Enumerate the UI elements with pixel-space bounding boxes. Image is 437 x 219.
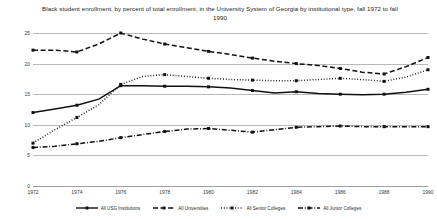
data-point-marker — [163, 85, 166, 88]
data-point-marker — [163, 73, 166, 76]
legend-item[interactable]: All Senior Colleges — [221, 205, 285, 211]
data-point-marker — [207, 50, 210, 53]
series-line — [33, 70, 428, 143]
x-axis-tick-label: 1990 — [422, 189, 433, 195]
y-axis-tick-label: 25 — [24, 30, 30, 36]
data-point-marker — [383, 125, 386, 128]
legend-item[interactable]: All Junior Colleges — [298, 205, 361, 211]
legend-label: All Universities — [178, 206, 208, 211]
data-point-marker — [339, 93, 342, 96]
data-point-marker — [207, 85, 210, 88]
data-point-marker — [75, 142, 78, 145]
x-axis-tick-label: 1988 — [379, 189, 390, 195]
y-axis-tick-label: 20 — [24, 61, 30, 67]
data-point-marker — [119, 136, 122, 139]
series-all-senior-colleges — [32, 68, 430, 144]
data-point-marker — [75, 50, 78, 53]
legend-label: All Senior Colleges — [246, 206, 285, 211]
series-layer — [33, 33, 428, 186]
data-point-marker — [295, 79, 298, 82]
y-axis-tick-label: 5 — [27, 152, 30, 158]
legend-item[interactable]: All Universities — [153, 205, 208, 211]
legend-swatch-icon — [76, 205, 98, 211]
data-point-marker — [427, 125, 430, 128]
x-axis-tick-label: 1980 — [203, 189, 214, 195]
data-point-marker — [32, 146, 35, 149]
x-axis-tick-label: 1982 — [247, 189, 258, 195]
legend-label: All Junior Colleges — [323, 206, 361, 211]
data-point-marker — [427, 56, 430, 59]
gridline-0: 0 — [33, 186, 428, 187]
legend-item[interactable]: All USG Institutions — [76, 205, 141, 211]
x-axis-tick-label: 1986 — [335, 189, 346, 195]
plot-area: 0510152025 — [33, 33, 428, 186]
data-point-marker — [163, 43, 166, 46]
x-axis-tick-label: 1974 — [71, 189, 82, 195]
data-point-marker — [207, 127, 210, 130]
data-point-marker — [295, 62, 298, 65]
data-point-marker — [383, 73, 386, 76]
data-point-marker — [339, 125, 342, 128]
series-line — [33, 33, 428, 74]
data-point-marker — [251, 79, 254, 82]
data-point-marker — [251, 57, 254, 60]
data-point-marker — [32, 49, 35, 52]
x-axis-tick-label: 1976 — [115, 189, 126, 195]
legend-swatch-icon — [221, 205, 243, 211]
data-point-marker — [75, 116, 78, 119]
data-point-marker — [32, 142, 35, 145]
data-point-marker — [119, 83, 122, 86]
data-point-marker — [295, 90, 298, 93]
data-point-marker — [207, 77, 210, 80]
data-point-marker — [75, 104, 78, 107]
y-axis-tick-label: 10 — [24, 122, 30, 128]
data-point-marker — [339, 67, 342, 70]
data-point-marker — [251, 131, 254, 134]
y-axis-tick-label: 15 — [24, 91, 30, 97]
series-all-universities — [32, 32, 430, 76]
data-point-marker — [32, 111, 35, 114]
x-axis-tick-label: 1972 — [27, 189, 38, 195]
series-all-junior-colleges — [32, 125, 430, 149]
data-point-marker — [383, 80, 386, 83]
legend-label: All USG Institutions — [101, 206, 141, 211]
data-point-marker — [383, 93, 386, 96]
chart-title: Black student enrollment, by percent of … — [40, 4, 400, 22]
data-point-marker — [119, 32, 122, 35]
data-point-marker — [295, 126, 298, 129]
data-point-marker — [163, 130, 166, 133]
series-line — [33, 126, 428, 147]
legend-swatch-icon — [153, 205, 175, 211]
data-point-marker — [251, 89, 254, 92]
chart-legend: All USG InstitutionsAll UniversitiesAll … — [0, 205, 437, 211]
chart-root: Black student enrollment, by percent of … — [0, 0, 437, 219]
data-point-marker — [427, 68, 430, 71]
x-axis-tick-label: 1978 — [159, 189, 170, 195]
series-line — [33, 86, 428, 113]
x-axis-tick-label: 1984 — [291, 189, 302, 195]
x-axis-labels: 1972197419761978198019821984198619881990 — [33, 189, 428, 199]
data-point-marker — [427, 88, 430, 91]
legend-swatch-icon — [298, 205, 320, 211]
data-point-marker — [339, 77, 342, 80]
